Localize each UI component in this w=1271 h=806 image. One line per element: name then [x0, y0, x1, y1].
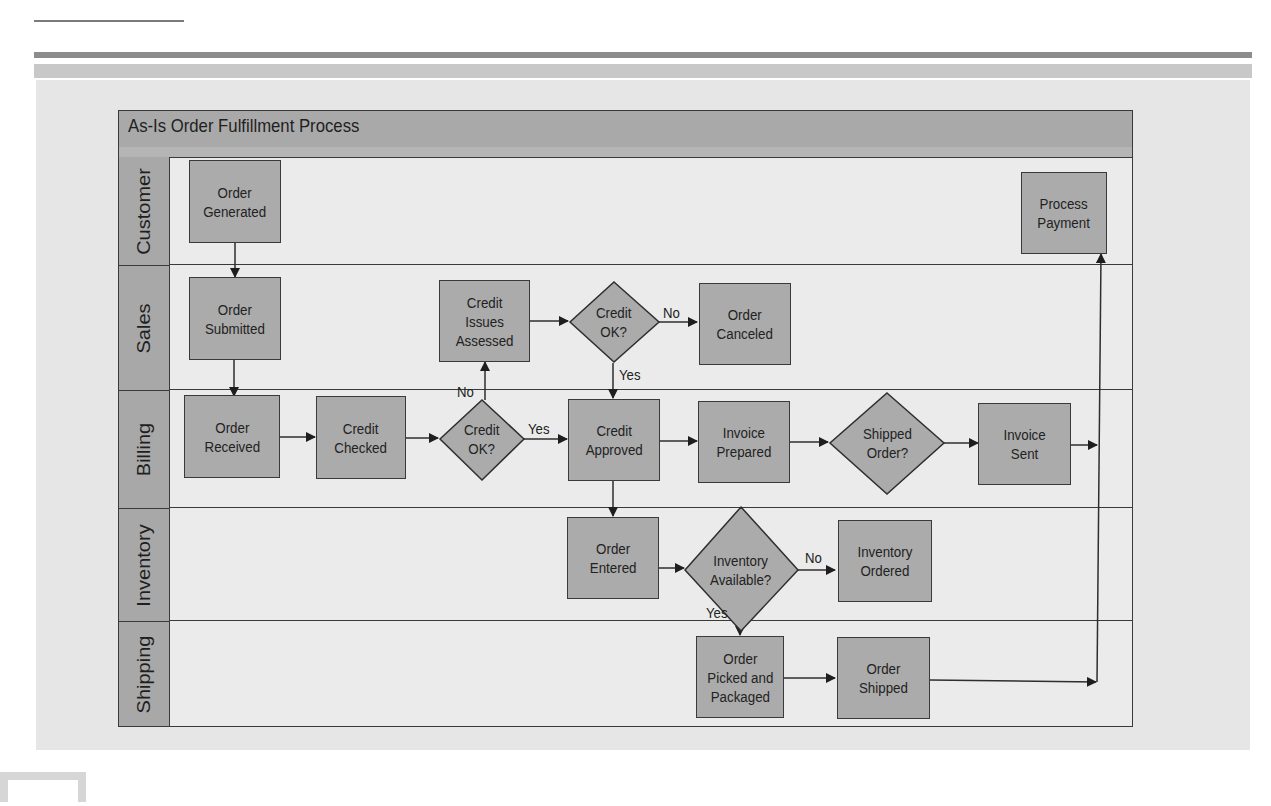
node-label: Inventory Ordered: [858, 542, 913, 580]
node-order-canceled[interactable]: Order Canceled: [699, 283, 791, 365]
decision-label-credit-ok-billing[interactable]: Credit OK?: [446, 418, 518, 460]
node-credit-approved[interactable]: Credit Approved: [568, 399, 660, 481]
node-label: Order Shipped: [859, 659, 908, 697]
node-order-generated[interactable]: Order Generated: [189, 160, 281, 243]
decision-label: Credit OK?: [596, 303, 632, 341]
node-credit-issues-assessed[interactable]: Credit Issues Assessed: [439, 280, 530, 362]
node-order-entered[interactable]: Order Entered: [567, 517, 659, 599]
node-order-picked-packaged[interactable]: Order Picked and Packaged: [696, 636, 784, 718]
node-invoice-sent[interactable]: Invoice Sent: [978, 403, 1071, 485]
decision-label-inventory-available[interactable]: Inventory Available?: [696, 549, 786, 591]
decision-label-credit-ok-sales[interactable]: Credit OK?: [578, 301, 650, 343]
node-label: Order Generated: [204, 183, 267, 221]
node-credit-checked[interactable]: Credit Checked: [316, 396, 406, 479]
node-label: Credit Approved: [585, 421, 642, 459]
node-order-received[interactable]: Order Received: [184, 395, 280, 478]
node-label: Order Picked and Packaged: [707, 649, 773, 706]
node-label: Order Canceled: [717, 305, 773, 343]
node-label: Credit Issues Assessed: [456, 293, 514, 350]
node-label: Invoice Sent: [1003, 425, 1045, 463]
node-invoice-prepared[interactable]: Invoice Prepared: [698, 401, 790, 483]
edge-label-sales-no: No: [663, 304, 680, 321]
node-label: Order Submitted: [205, 300, 265, 338]
node-label: Credit Checked: [335, 419, 388, 457]
node-label: Order Entered: [590, 539, 637, 577]
decision-label: Credit OK?: [464, 420, 500, 458]
node-order-shipped[interactable]: Order Shipped: [837, 637, 930, 719]
edge-label-billing-no: No: [457, 383, 474, 400]
node-order-submitted[interactable]: Order Submitted: [189, 277, 281, 360]
decision-label-shipped-order[interactable]: Shipped Order?: [842, 422, 932, 464]
decision-label: Shipped Order?: [863, 424, 912, 462]
node-label: Process Payment: [1038, 194, 1091, 232]
decision-label: Inventory Available?: [710, 551, 771, 589]
edge-label-inventory-yes: Yes: [706, 604, 728, 621]
edge-shipped-payment: [930, 680, 1096, 682]
node-label: Order Received: [204, 418, 260, 456]
node-process-payment[interactable]: Process Payment: [1021, 172, 1107, 254]
node-inventory-ordered[interactable]: Inventory Ordered: [838, 520, 932, 602]
edge-label-inventory-no: No: [805, 549, 822, 566]
edge-label-billing-yes: Yes: [528, 420, 550, 437]
edge-label-sales-yes: Yes: [619, 366, 641, 383]
node-label: Invoice Prepared: [717, 423, 772, 461]
edge-vertical-to-payment: [1097, 254, 1101, 682]
